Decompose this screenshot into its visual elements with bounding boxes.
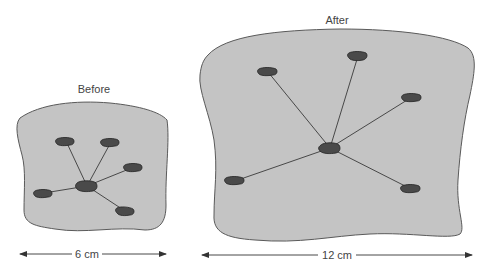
neuron-node	[401, 185, 421, 193]
neuron-node	[124, 164, 143, 172]
after-title: After	[325, 14, 349, 26]
neuron-node	[258, 68, 278, 76]
neuron-node	[348, 52, 368, 61]
before-width-label: 6 cm	[75, 248, 99, 260]
neuron-node	[225, 177, 245, 185]
neuron-node-center	[319, 143, 340, 154]
neuron-node	[116, 207, 135, 216]
neuron-node	[402, 94, 422, 102]
neuron-node-center	[76, 181, 98, 192]
after-blob	[200, 29, 474, 241]
neuron-node	[34, 190, 53, 198]
before-title: Before	[78, 83, 110, 95]
before-blob	[17, 102, 168, 231]
after-panel: After 12 cm	[200, 14, 474, 261]
neuron-node	[56, 138, 75, 146]
before-panel: Before 6 cm	[17, 83, 168, 260]
after-width-dimension: 12 cm	[202, 249, 472, 261]
before-width-dimension: 6 cm	[20, 248, 166, 260]
neuron-node	[101, 139, 120, 147]
after-width-label: 12 cm	[322, 249, 352, 261]
before-after-diagram: Before 6 cm After	[0, 0, 488, 276]
